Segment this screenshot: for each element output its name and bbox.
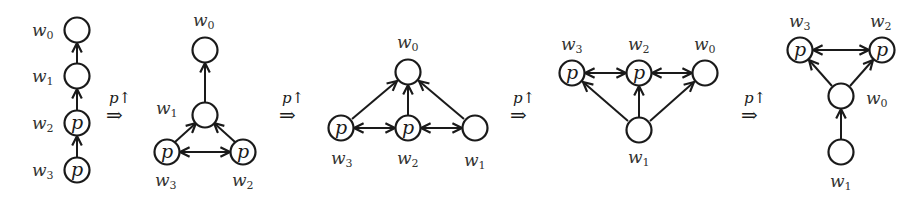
node-w1 — [65, 64, 90, 89]
transition-arrow-3: p↑ ⇒ — [510, 89, 535, 127]
node-label: w2 — [870, 11, 892, 33]
node-marker: p — [566, 61, 578, 83]
implies-icon: ⇒ — [106, 103, 123, 127]
node-label: w1 — [32, 66, 54, 88]
node-w0 — [193, 38, 218, 63]
diagram-canvas: p p w0 w1 w2 w3 p↑ ⇒ p p w0 w1 w3 w2 p↑ … — [0, 0, 921, 200]
node-marker: p — [633, 61, 645, 83]
node-label: w1 — [628, 147, 650, 169]
node-marker: p — [71, 111, 83, 133]
node-w1 — [829, 140, 854, 165]
node-w1 — [463, 116, 488, 141]
edge-w2-w1 — [214, 123, 235, 142]
panel-5: p p w3 w2 w0 w1 — [788, 11, 895, 193]
node-w0 — [65, 18, 90, 43]
implies-icon: ⇒ — [741, 103, 758, 127]
node-label: w2 — [397, 148, 419, 170]
node-label: w2 — [232, 170, 254, 192]
edge-w3-w0 — [352, 81, 397, 119]
node-w0 — [693, 61, 718, 86]
node-label: w0 — [866, 88, 888, 110]
node-label: w3 — [789, 11, 811, 33]
node-label: w2 — [628, 34, 650, 56]
edge-w1-w0 — [650, 82, 694, 121]
implies-icon: ⇒ — [510, 103, 527, 127]
node-marker: p — [71, 158, 83, 180]
node-label: w3 — [331, 148, 353, 170]
panel-3: p p w0 w3 w2 w1 — [329, 32, 488, 172]
edge-w0-w2 — [850, 60, 873, 86]
node-marker: p — [402, 116, 414, 138]
node-label: w1 — [464, 150, 486, 172]
node-label: w0 — [397, 32, 419, 54]
node-w0 — [829, 84, 854, 109]
node-label: w3 — [32, 160, 54, 182]
node-label: w3 — [155, 170, 177, 192]
node-label: w3 — [561, 34, 583, 56]
node-w1 — [193, 103, 218, 128]
node-marker: p — [237, 140, 249, 162]
node-label: w0 — [32, 20, 54, 42]
node-marker: p — [794, 38, 806, 60]
node-label: w0 — [694, 34, 716, 56]
edge-w1-w0 — [419, 81, 464, 119]
node-marker: p — [161, 140, 173, 162]
edge-w1-w3 — [583, 82, 628, 121]
panel-1: p p w0 w1 w2 w3 — [32, 18, 90, 183]
transition-arrow-4: p↑ ⇒ — [741, 89, 766, 127]
panel-2: p p w0 w1 w3 w2 — [155, 10, 256, 192]
panel-4: p p w3 w2 w0 w1 — [560, 34, 718, 169]
node-label: w0 — [193, 10, 215, 32]
edge-w3-w1 — [175, 123, 196, 142]
implies-icon: ⇒ — [279, 103, 296, 127]
transition-arrow-1: p↑ ⇒ — [106, 89, 131, 127]
node-w0 — [396, 60, 421, 85]
node-w1 — [627, 118, 652, 143]
node-label: w2 — [32, 113, 54, 135]
edge-w0-w3 — [809, 60, 832, 86]
node-marker: p — [335, 116, 347, 138]
transition-arrow-2: p↑ ⇒ — [279, 89, 304, 127]
node-label: w1 — [156, 98, 178, 120]
node-label: w1 — [830, 171, 852, 193]
node-marker: p — [876, 38, 888, 60]
